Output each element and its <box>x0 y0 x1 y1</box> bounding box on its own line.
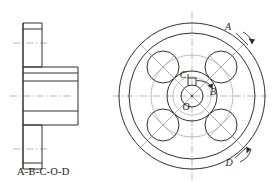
drawing-caption: A-B-C-O-D <box>17 166 70 177</box>
section-lower-boss <box>23 125 42 169</box>
label-d: D <box>224 157 233 168</box>
label-o: O <box>182 101 189 112</box>
engineering-drawing: A B C O D A-B-C-O-D <box>0 0 277 189</box>
leader-a <box>236 32 255 45</box>
drawing-canvas: A B C O D <box>0 0 277 189</box>
front-center-point <box>191 95 193 97</box>
right-circular-view: A B C O D <box>113 12 270 181</box>
label-a: A <box>224 21 232 32</box>
left-section-view <box>10 23 78 169</box>
label-c: C <box>180 69 187 80</box>
label-b: B <box>210 86 216 97</box>
arrow-head-a <box>249 39 256 44</box>
section-upper-boss <box>23 23 42 67</box>
leader-d <box>235 147 251 162</box>
